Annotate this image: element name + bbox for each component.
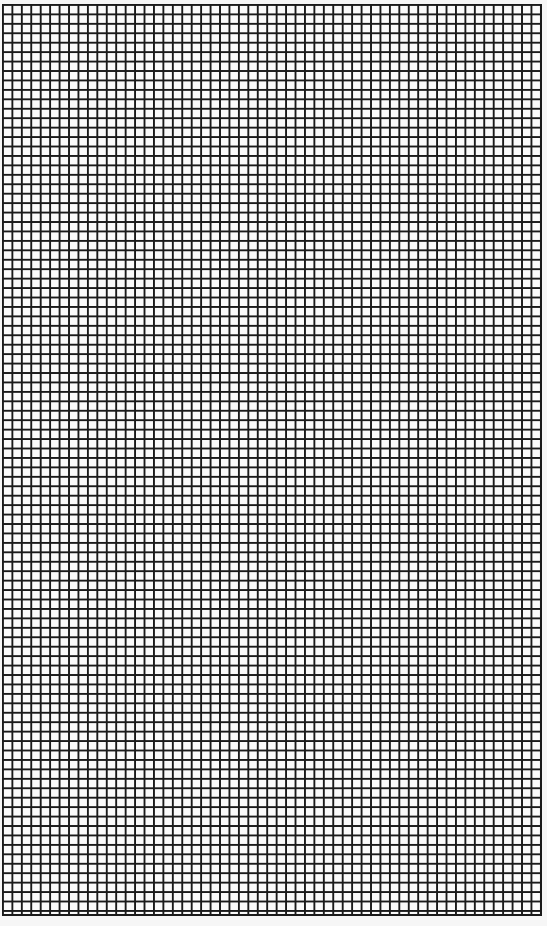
- graph-paper-grid: [2, 4, 542, 916]
